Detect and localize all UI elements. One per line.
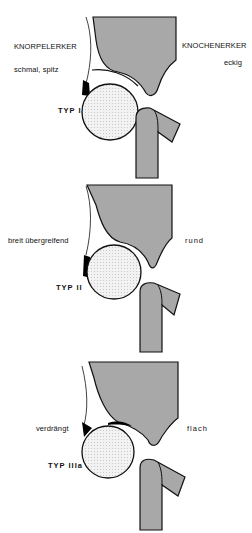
labrum-line (85, 17, 91, 88)
label-knorpel-desc-2: breit übergreifend (8, 236, 69, 245)
label-knorpelerker: KNORPELERKER (14, 42, 77, 51)
label-typ-3a: TYP IIIa (48, 461, 83, 470)
labrum-line (86, 186, 91, 255)
label-knochen-desc-3: flach (187, 424, 208, 433)
femoral-head (87, 245, 141, 299)
panel-typ-1 (82, 17, 180, 178)
panel-typ-3a (82, 362, 185, 530)
iliac-bone (93, 17, 176, 95)
femur-shaft (136, 108, 180, 178)
panel-typ-2 (83, 185, 180, 352)
femoral-head (82, 426, 134, 478)
label-typ-2: TYP II (56, 283, 83, 292)
label-knochen-desc-1: eckig (224, 58, 242, 67)
femoral-head (82, 84, 138, 140)
femur-shaft (140, 283, 180, 352)
label-knochen-desc-2: rund (185, 236, 204, 245)
label-knorpel-desc-3: verdrängt (36, 424, 69, 433)
femur-shaft (140, 459, 185, 530)
label-typ-1: TYP I (58, 106, 82, 115)
label-knorpel-desc-1: schmal, spitz (14, 65, 59, 74)
hip-joint-diagram (0, 0, 252, 533)
labrum-line (82, 366, 87, 425)
label-knochenerker: KNOCHENERKER (182, 41, 247, 50)
